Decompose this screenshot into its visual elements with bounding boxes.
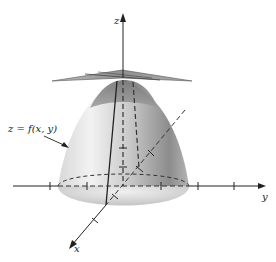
surface-label: z = f(x, y) bbox=[7, 123, 57, 134]
arrowhead-icon bbox=[61, 142, 69, 148]
y-axis-label: y bbox=[261, 191, 268, 202]
z-axis-label: z bbox=[113, 15, 120, 26]
diagram-canvas: z y x z = f(x, y) bbox=[0, 0, 276, 262]
tangent-plane bbox=[52, 70, 192, 81]
x-axis-label: x bbox=[74, 243, 80, 254]
